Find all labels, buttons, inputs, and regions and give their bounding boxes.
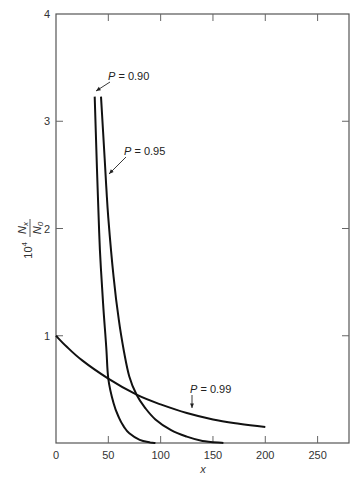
y-axis-label: 104 Nx N0 <box>16 219 45 259</box>
x-axis-label: x <box>199 463 206 475</box>
svg-text:104: 104 <box>20 241 34 258</box>
svg-text:Nx: Nx <box>16 221 30 234</box>
arrow-icon <box>190 403 194 408</box>
annotations: P = 0.90P = 0.95P = 0.99 <box>96 70 231 408</box>
x-tick-label: 0 <box>53 449 59 461</box>
annotation-label: P = 0.99 <box>190 383 231 395</box>
x-tick-label: 100 <box>151 449 169 461</box>
x-tick-label: 250 <box>308 449 326 461</box>
svg-text:N0: N0 <box>31 221 45 234</box>
arrow-icon <box>96 87 101 91</box>
x-tick-label: 200 <box>256 449 274 461</box>
y-tick-label: 3 <box>44 115 50 127</box>
y-tick-label: 4 <box>44 8 50 20</box>
chart: 0501001502002501234 P = 0.90P = 0.95P = … <box>0 0 364 484</box>
annotation-label: P = 0.90 <box>108 70 149 82</box>
tick-labels: 0501001502002501234 <box>44 8 327 461</box>
y-tick-label: 1 <box>44 330 50 342</box>
curve-099 <box>56 336 265 427</box>
x-tick-label: 150 <box>204 449 222 461</box>
annotation-label: P = 0.95 <box>124 145 165 157</box>
x-tick-label: 50 <box>102 449 114 461</box>
